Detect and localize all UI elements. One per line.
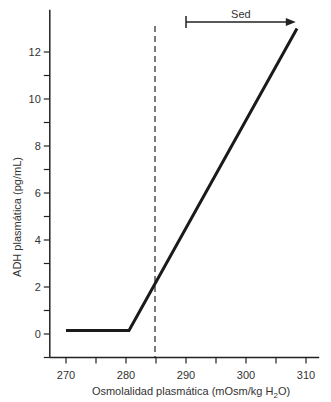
y-tick-label: 2 [35,281,41,293]
y-tick-label: 10 [29,93,41,105]
adh-line-series [66,29,297,331]
x-tick-label: 310 [297,369,315,381]
x-axis: 270280290300310 [50,358,319,381]
y-axis-title: ADH plasmática (pg/mL) [11,157,23,277]
x-tick-label: 270 [57,369,75,381]
sed-arrow: Sed [186,8,296,28]
x-tick-label: 280 [117,369,135,381]
y-tick-label: 0 [35,328,41,340]
x-tick-label: 290 [177,369,195,381]
y-tick-label: 6 [35,187,41,199]
y-axis: 024681012 [29,10,50,358]
adh-line [66,29,297,331]
x-axis-title: Osmolalidad plasmática (mOsm/kg H2O) [92,385,290,400]
y-tick-label: 12 [29,46,41,58]
chart: 024681012 270280290300310 Sed Osmolalida… [0,0,331,402]
y-tick-label: 4 [35,234,41,246]
sed-label: Sed [231,8,251,20]
y-tick-label: 8 [35,140,41,152]
x-tick-label: 300 [237,369,255,381]
arrow-head-icon [286,18,296,26]
